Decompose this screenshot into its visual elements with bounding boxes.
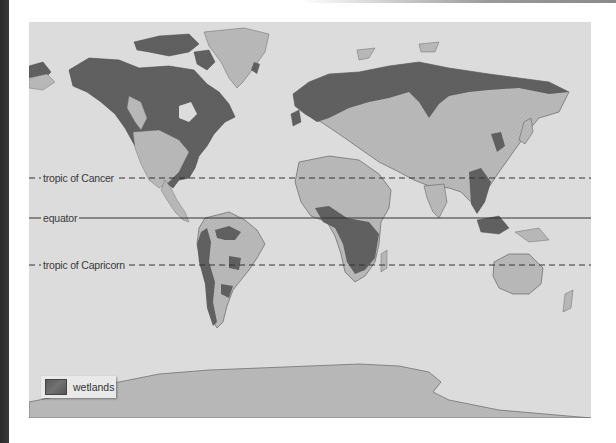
map-graphic: [29, 22, 591, 418]
tropic-of-cancer-label: tropic of Cancer: [41, 172, 116, 184]
world-map: tropic of Cancer equator tropic of Capri…: [29, 22, 591, 418]
africa: [295, 156, 391, 282]
greenland: [204, 28, 269, 88]
tropic-of-capricorn-label: tropic of Capricorn: [41, 259, 127, 271]
legend-label-wetlands: wetlands: [73, 381, 114, 393]
equator-label: equator: [41, 212, 79, 224]
south-america: [197, 212, 265, 328]
map-legend: wetlands: [41, 376, 116, 398]
book-spine-shadow: [0, 0, 9, 443]
oceania: [477, 216, 573, 312]
page-edge-shadow: [300, 0, 616, 3]
wetlands-swatch: [45, 379, 67, 395]
north-america: [29, 34, 235, 222]
